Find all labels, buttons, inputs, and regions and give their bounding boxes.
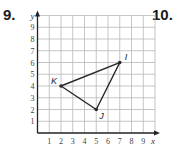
y-tick-label: 7	[31, 47, 35, 56]
x-tick-label: 5	[94, 137, 98, 146]
x-tick-label: 4	[83, 137, 87, 146]
point-K-dot	[59, 84, 63, 88]
point-K-label: K	[51, 76, 58, 86]
y-tick-label: 5	[31, 70, 35, 79]
y-axis-arrow-icon	[35, 11, 40, 17]
point-J-label: J	[98, 111, 104, 121]
y-axis-label: y	[30, 11, 35, 21]
x-tick-label: 6	[106, 137, 110, 146]
grid-lines	[38, 16, 156, 134]
x-axis-label: x	[150, 136, 155, 146]
point-I-label: I	[125, 52, 128, 62]
y-tick-label: 6	[31, 59, 35, 68]
tick-labels: 123456789123456789	[31, 23, 146, 146]
x-tick-label: 7	[118, 137, 122, 146]
y-tick-label: 2	[31, 106, 35, 115]
y-tick-label: 1	[31, 117, 35, 126]
y-tick-label: 8	[31, 35, 35, 44]
x-tick-label: 1	[47, 137, 51, 146]
point-I-dot	[118, 61, 122, 65]
x-tick-label: 2	[59, 137, 63, 146]
x-tick-label: 9	[141, 137, 145, 146]
y-tick-label: 3	[31, 94, 35, 103]
x-tick-label: 3	[71, 137, 75, 146]
x-axis-arrow-icon	[154, 131, 160, 136]
coordinate-plane: xy 123456789123456789 KIJ	[0, 0, 178, 149]
y-tick-label: 9	[31, 23, 35, 32]
y-tick-label: 4	[31, 82, 35, 91]
x-tick-label: 8	[130, 137, 134, 146]
point-J-dot	[94, 108, 98, 112]
